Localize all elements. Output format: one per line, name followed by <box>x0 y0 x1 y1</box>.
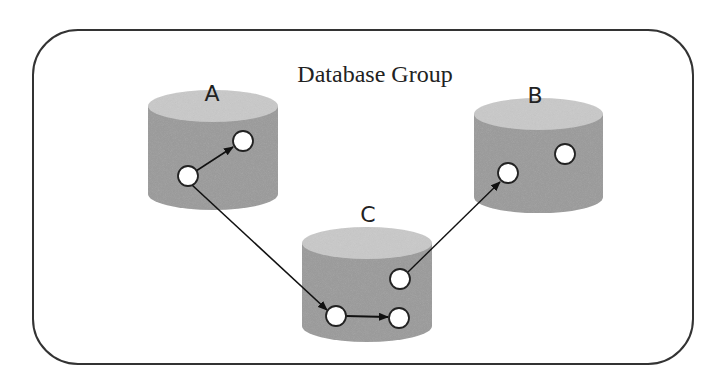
database-c-label: C <box>360 202 375 227</box>
database-c <box>302 227 432 342</box>
database-a-label: A <box>204 81 219 106</box>
cylinder-c-top <box>302 227 432 259</box>
node-b1 <box>498 163 518 183</box>
node-c2 <box>389 308 409 328</box>
database-b <box>474 98 603 213</box>
node-b2 <box>555 144 575 164</box>
node-c1 <box>326 306 346 326</box>
node-c3 <box>390 269 410 289</box>
node-a1 <box>178 166 198 186</box>
edge-c3-to-b1 <box>408 182 500 272</box>
group-title: Database Group <box>297 61 452 87</box>
node-a2 <box>233 131 253 151</box>
database-a <box>148 90 278 210</box>
edge-c1-to-c2 <box>346 316 388 317</box>
database-group-diagram: Database Group A B C <box>0 0 717 382</box>
database-b-label: B <box>527 83 542 108</box>
